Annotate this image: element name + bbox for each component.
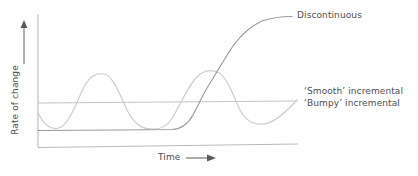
series-discontinuous xyxy=(38,17,292,131)
x-axis-arrow-icon xyxy=(186,153,216,163)
x-axis-line xyxy=(38,144,298,148)
chart-container: Rate of change Time Discontinuous ‘Smoot… xyxy=(0,0,418,176)
series-label-bumpy-incremental: ‘Bumpy’ incremental xyxy=(304,98,400,109)
series-label-discontinuous: Discontinuous xyxy=(297,10,362,21)
x-axis-label: Time xyxy=(158,152,180,162)
series-label-smooth-incremental: ‘Smooth’ incremental xyxy=(304,86,403,97)
series-bumpy-incremental xyxy=(38,71,297,130)
y-axis-label: Rate of change xyxy=(10,60,20,140)
y-axis-arrow-icon xyxy=(18,20,30,64)
